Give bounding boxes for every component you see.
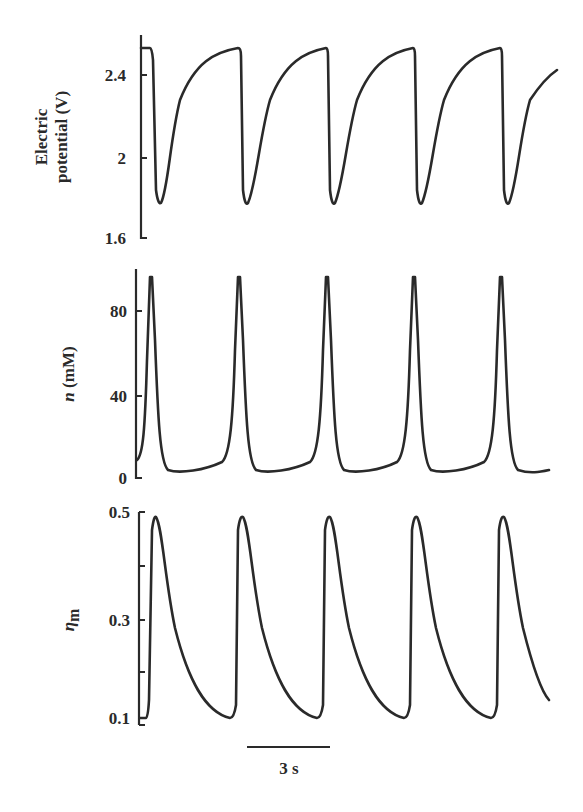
ytick-0: 0	[119, 469, 128, 488]
ytick-0-3: 0.3	[109, 611, 130, 630]
potential-trace	[141, 48, 557, 204]
y-axis-eta-m	[139, 512, 145, 725]
time-scale-bar: 3 s	[247, 747, 330, 778]
n-trace	[137, 277, 549, 472]
svg-text:potential (V): potential (V)	[52, 91, 71, 183]
figure: 2.4 2 1.6 Electric potential (V) 80 40 0…	[0, 0, 583, 812]
ytick-1-6: 1.6	[105, 229, 126, 248]
y-axis-potential	[141, 35, 147, 238]
ylabel-eta-m: ηm	[59, 608, 82, 631]
ytick-40: 40	[110, 387, 127, 406]
ylabel-n: n (mM)	[59, 346, 78, 401]
ytick-2-4: 2.4	[105, 66, 127, 85]
ytick-0-5: 0.5	[109, 503, 130, 522]
ytick-80: 80	[110, 302, 127, 321]
scale-bar-label: 3 s	[279, 759, 299, 778]
eta-m-trace	[140, 517, 549, 718]
ylabel-potential: Electric potential (V)	[32, 91, 71, 183]
panel-eta-m: 0.5 0.3 0.1 ηm	[59, 503, 549, 728]
ytick-2: 2	[118, 149, 127, 168]
svg-text:n (mM): n (mM)	[59, 346, 78, 401]
ytick-0-1: 0.1	[109, 709, 130, 728]
panel-electric-potential: 2.4 2 1.6 Electric potential (V)	[32, 35, 557, 248]
svg-text:ηm: ηm	[59, 608, 82, 631]
panel-n: 80 40 0 n (mM)	[59, 269, 549, 488]
svg-text:Electric: Electric	[32, 108, 51, 165]
